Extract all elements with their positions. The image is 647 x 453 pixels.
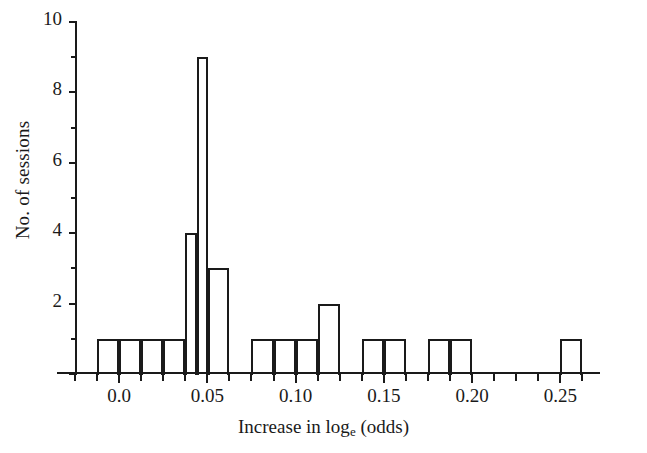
- y-minor-tick-9: [71, 56, 77, 58]
- x-tick-label-0.10: 0.10: [279, 386, 312, 405]
- y-axis-title: No. of sessions: [12, 10, 42, 350]
- x-tick-label-0.15: 0.15: [367, 386, 400, 405]
- x-axis-title-subscript: e: [350, 424, 356, 439]
- x-axis-title-suffix: (odds): [356, 416, 409, 437]
- histogram-bar: [119, 339, 141, 375]
- y-minor-tick-5: [71, 197, 77, 199]
- x-minor-tick: [449, 374, 451, 381]
- histogram-bar: [251, 339, 273, 375]
- y-tick-2: 2: [69, 303, 77, 305]
- x-minor-tick: [74, 374, 76, 381]
- y-minor-tick-1: [71, 338, 77, 340]
- x-tick-0.20: [471, 374, 473, 383]
- y-tick-4: 4: [69, 232, 77, 234]
- histogram-bar: [141, 339, 163, 375]
- histogram-bar: [296, 339, 318, 375]
- x-axis-title: Increase in loge (odds): [0, 416, 647, 438]
- y-tick-10: 10: [69, 21, 77, 23]
- x-minor-tick: [405, 374, 407, 381]
- x-minor-tick: [184, 374, 186, 381]
- x-minor-tick: [537, 374, 539, 381]
- x-minor-tick: [162, 374, 164, 381]
- histogram-bar: [274, 339, 296, 375]
- x-minor-tick: [250, 374, 252, 381]
- histogram-bar: [560, 339, 582, 375]
- histogram-bar: [318, 304, 340, 375]
- x-tick-label-0.0: 0.0: [107, 386, 131, 405]
- x-tick-0.05: [206, 374, 208, 383]
- y-tick-label-10: 10: [43, 9, 62, 28]
- x-tick-label-0.20: 0.20: [455, 386, 488, 405]
- x-tick-0.10: [295, 374, 297, 383]
- y-tick-label-4: 4: [53, 220, 63, 239]
- x-minor-tick: [273, 374, 275, 381]
- x-tick-0.25: [559, 374, 561, 383]
- y-tick-label-8: 8: [53, 79, 63, 98]
- histogram-bar: [362, 339, 384, 375]
- x-minor-tick: [581, 374, 583, 381]
- histogram-bar: [384, 339, 406, 375]
- x-minor-tick: [317, 374, 319, 381]
- y-tick-8: 8: [69, 91, 77, 93]
- x-minor-tick: [339, 374, 341, 381]
- histogram-bar: [97, 339, 119, 375]
- y-tick-label-6: 6: [53, 150, 63, 169]
- x-minor-tick: [515, 374, 517, 381]
- y-minor-tick-7: [71, 127, 77, 129]
- x-tick-label-0.25: 0.25: [544, 386, 577, 405]
- plot-area: 246810 0.00.050.100.150.200.25: [75, 22, 600, 374]
- x-minor-tick: [427, 374, 429, 381]
- histogram-figure: No. of sessions 246810 0.00.050.100.150.…: [0, 0, 647, 453]
- histogram-bar: [197, 57, 208, 375]
- x-tick-label-0.05: 0.05: [191, 386, 224, 405]
- y-tick-label-2: 2: [53, 291, 63, 310]
- y-tick-6: 6: [69, 162, 77, 164]
- x-minor-tick: [228, 374, 230, 381]
- x-minor-tick: [96, 374, 98, 381]
- y-minor-tick-3: [71, 267, 77, 269]
- x-tick-0.15: [383, 374, 385, 383]
- histogram-bar: [428, 339, 450, 375]
- histogram-bar: [185, 233, 196, 375]
- x-axis-title-prefix: Increase in log: [238, 416, 350, 437]
- x-minor-tick: [361, 374, 363, 381]
- x-tick-0.0: [118, 374, 120, 383]
- x-minor-tick: [493, 374, 495, 381]
- histogram-bar: [450, 339, 472, 375]
- histogram-bar: [163, 339, 185, 375]
- histogram-bar: [208, 268, 229, 375]
- x-minor-tick: [140, 374, 142, 381]
